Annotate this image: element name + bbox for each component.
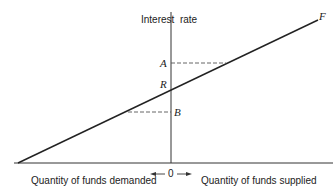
x-axis-right-label: Quantity of funds supplied xyxy=(201,175,317,186)
diagram-canvas: Interest rate F A R B 0 Quantity of fund… xyxy=(0,0,333,189)
curve-label-f: F xyxy=(318,10,326,22)
point-label-b: B xyxy=(174,106,181,118)
x-axis-left-label: Quantity of funds demanded xyxy=(31,175,157,186)
arrow-right-head-icon xyxy=(186,172,192,176)
point-label-r: R xyxy=(159,78,167,90)
origin-label: 0 xyxy=(168,168,174,179)
curve-f xyxy=(18,20,318,163)
point-label-a: A xyxy=(159,57,167,69)
y-axis-label: Interest rate xyxy=(141,14,198,25)
